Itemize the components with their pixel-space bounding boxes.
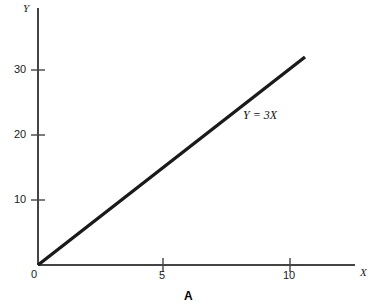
x-axis-tick-label-5: 5 xyxy=(159,270,165,281)
series-equation-annotation: Y = 3X xyxy=(243,109,277,121)
y-axis-tick-label-10: 10 xyxy=(14,194,26,205)
panel-caption: A xyxy=(184,290,193,302)
y-axis-tick-label-30: 30 xyxy=(14,64,26,75)
data-line-y-equals-3x xyxy=(38,57,305,265)
y-axis-label: Y xyxy=(23,3,29,14)
y-axis-tick-label-20: 20 xyxy=(14,129,26,140)
x-axis-label: X xyxy=(360,267,367,278)
plot-area xyxy=(0,0,375,308)
figure-panel-a: 30 20 10 0 5 10 Y X Y = 3X A xyxy=(0,0,375,308)
x-axis-tick-label-10: 10 xyxy=(283,270,295,281)
origin-label: 0 xyxy=(31,269,37,280)
